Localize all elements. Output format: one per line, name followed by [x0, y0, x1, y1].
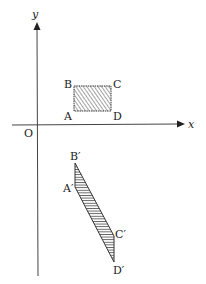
- origin-label: O: [24, 127, 33, 140]
- vertex-label-b: B: [64, 78, 72, 91]
- transformation-diagram: x y O B C A D B′ A′ C′ D′: [0, 0, 206, 284]
- vertex-label-a-prime: A′: [62, 182, 74, 195]
- vertex-label-b-prime: B′: [70, 150, 81, 163]
- rectangle-abcd: [74, 86, 111, 111]
- vertex-label-d-prime: D′: [113, 264, 125, 277]
- y-axis-arrow-icon: [34, 22, 41, 30]
- y-axis-label: y: [31, 8, 39, 21]
- vertex-label-c-prime: C′: [115, 228, 126, 241]
- y-axis: [37, 30, 38, 276]
- vertex-label-a: A: [63, 110, 73, 123]
- parallelogram-a-prime-b-prime-c-prime-d-prime: [75, 163, 114, 262]
- axes: [12, 22, 185, 276]
- vertex-label-d: D: [113, 110, 122, 123]
- vertex-label-c: C: [113, 78, 121, 91]
- x-axis-arrow-icon: [177, 121, 185, 128]
- x-axis-label: x: [188, 118, 195, 131]
